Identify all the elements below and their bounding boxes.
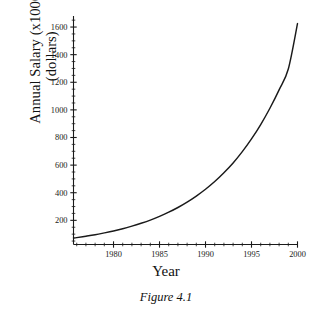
salary-curve [74, 24, 298, 238]
x-axis-label: Year [0, 263, 332, 280]
x-tick-label: 2000 [289, 250, 306, 259]
y-axis-label-line1: Annual Salary (x1000) [27, 0, 43, 161]
axes [74, 16, 298, 245]
x-axis-tick-labels: 19801985199019952000 [105, 250, 306, 259]
y-axis-label-line2: (dollars) [43, 0, 59, 161]
x-tick-label: 1985 [151, 250, 168, 259]
x-tick-label: 1990 [197, 250, 214, 259]
y-tick-label: 200 [55, 216, 68, 225]
y-axis-label: Annual Salary (x1000) (dollars) [27, 0, 59, 161]
x-tick-label: 1995 [243, 250, 260, 259]
y-tick-label: 600 [55, 161, 68, 170]
y-tick-label: 400 [55, 189, 68, 198]
figure-container: 2004006008001000120014001600 19801985199… [0, 0, 332, 319]
figure-caption: Figure 4.1 [0, 290, 332, 305]
x-tick-label: 1980 [105, 250, 122, 259]
